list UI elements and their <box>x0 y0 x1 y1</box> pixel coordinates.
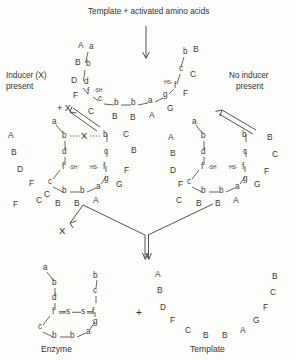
chain-low-b3: b <box>183 48 188 56</box>
sr-bB2: B <box>215 199 221 207</box>
tpl-G: G <box>253 316 260 324</box>
chain-low-a1: a <box>148 97 153 105</box>
sl-D: D <box>17 165 23 173</box>
chain-low-d: d <box>84 78 89 86</box>
fr-thiol-right: HS- <box>229 165 237 170</box>
fr-g: g <box>243 175 248 183</box>
enz-b1: b <box>52 279 57 287</box>
tpl-B3: B <box>222 331 228 339</box>
chain-cap-B1: B <box>112 112 118 120</box>
fl-b2: b <box>103 131 108 139</box>
chain-cap-C2: C <box>190 70 196 78</box>
chain-cap-B3: B <box>193 45 199 53</box>
sr-D: D <box>170 166 176 174</box>
fl-f2: f <box>103 163 105 171</box>
tpl-B1: B <box>157 286 163 294</box>
fr-f1: f <box>201 163 203 171</box>
fr-thiol-left: -SH <box>208 165 216 170</box>
chain-low-b: b <box>86 60 91 68</box>
sl-C: C <box>44 190 50 198</box>
sr-rB: B <box>267 133 273 141</box>
chain-low-b1: b <box>114 99 119 107</box>
chain-cap-B: B <box>75 58 81 66</box>
fl-a: a <box>52 118 57 126</box>
tpl-B4: B <box>272 272 278 280</box>
enz-f1: f <box>52 308 54 316</box>
thiol-right-open: HS- <box>164 80 172 85</box>
sl-bB2: B <box>74 199 80 207</box>
enz-b4: b <box>70 332 75 340</box>
no-inducer-line1: No inducer <box>229 72 269 80</box>
sl-bB1: B <box>55 199 61 207</box>
fr-a2: a <box>235 183 240 191</box>
enz-s1: s <box>66 308 70 316</box>
chain-cap-C1: C <box>88 107 94 115</box>
inducer-present-line2: present <box>6 83 33 91</box>
chain-low-c1: c <box>98 95 102 103</box>
sl-rF: F <box>124 166 129 174</box>
sr-rG: G <box>254 180 261 188</box>
sl-bC: C <box>36 196 42 204</box>
fr-d: d <box>201 148 206 156</box>
enz-c: c <box>38 323 42 331</box>
chain-cap-D: D <box>71 76 77 84</box>
tpl-F2: F <box>263 303 268 311</box>
sl-F: F <box>29 179 34 187</box>
arrow-release-x <box>70 205 83 228</box>
tpl-B2: B <box>203 331 209 339</box>
sr-F: F <box>178 180 183 188</box>
chain-cap-B2: B <box>130 113 136 121</box>
chain-cap-G: G <box>167 104 174 112</box>
sl-bA: A <box>93 196 99 204</box>
fr-a: a <box>192 118 197 126</box>
sr-extra-F: F <box>13 200 18 208</box>
sr-rF: F <box>264 167 269 175</box>
sl-rB: B <box>131 146 137 154</box>
fr-b1: b <box>201 132 206 140</box>
enz-c2: c <box>93 287 97 295</box>
fl-a2: a <box>96 183 101 191</box>
sr-A: A <box>168 133 174 141</box>
chain-cap-F: F <box>73 91 78 99</box>
fr-c-right: c <box>243 148 247 156</box>
plus-x-label: + X <box>57 104 71 113</box>
chain-low-c2: c <box>179 65 183 73</box>
tpl-C1: C <box>185 326 191 334</box>
tpl-A1: A <box>155 270 161 278</box>
arrow-branch-right <box>216 110 257 134</box>
fl-b4: b <box>80 187 85 195</box>
bound-inducer-x: X <box>81 131 87 141</box>
thiol-left-open: -SH <box>94 88 102 93</box>
chain-cap-A1: A <box>149 111 155 119</box>
plus-sign: + <box>136 308 142 318</box>
fl-thiol-left: -SH <box>69 165 77 170</box>
sr-bA: A <box>233 196 239 204</box>
diagram-title: Template + activated amino acids <box>88 8 206 16</box>
tpl-A2: A <box>240 326 246 334</box>
sl-B: B <box>11 148 17 156</box>
enz-f2: f <box>92 308 94 316</box>
tpl-F1: F <box>170 316 175 324</box>
fr-c: c <box>187 178 191 186</box>
chain-low-g: g <box>163 91 168 99</box>
template-label: Template <box>190 345 225 354</box>
enz-s2: s <box>81 308 85 316</box>
fl-f1: f <box>62 163 64 171</box>
enz-a2: a <box>86 328 91 336</box>
arrow-converge-left <box>83 205 145 235</box>
fr-b4: b <box>219 187 224 195</box>
sl-rC: C <box>123 130 129 138</box>
fl-c-right: c <box>104 148 108 156</box>
sr-B: B <box>170 149 176 157</box>
sr-bC: C <box>176 196 182 204</box>
arrow-products-down <box>142 235 151 260</box>
fr-b3: b <box>201 187 206 195</box>
sr-bB1: B <box>196 199 202 207</box>
tpl-D: D <box>160 303 166 311</box>
inducer-present-line1: Inducer (X) <box>6 72 47 80</box>
diagram-canvas: Template + activated amino acids Inducer… <box>0 0 296 361</box>
arrow-branch-left <box>70 107 100 132</box>
fr-b2: b <box>242 131 247 139</box>
arrow-converge-right <box>148 204 213 235</box>
fl-b1: b <box>62 132 67 140</box>
